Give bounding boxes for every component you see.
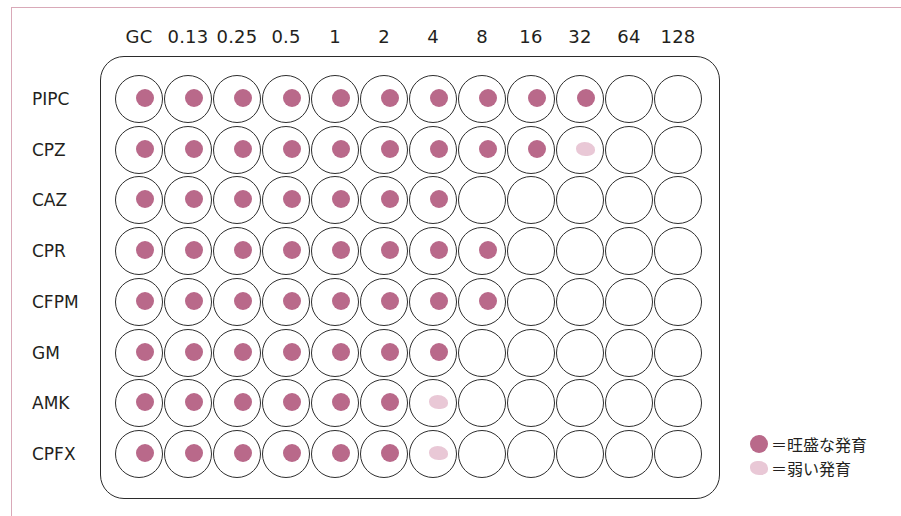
strong-growth-dot-icon (136, 292, 154, 310)
strong-growth-dot-icon (381, 190, 399, 208)
well (213, 430, 261, 478)
well (262, 379, 310, 427)
well (556, 278, 604, 326)
well (262, 227, 310, 275)
strong-growth-dot-icon (381, 343, 399, 361)
well (213, 329, 261, 377)
row-label: CFPM (32, 290, 79, 314)
well (605, 430, 653, 478)
well (115, 329, 163, 377)
well (507, 278, 555, 326)
strong-growth-dot-icon (234, 190, 252, 208)
strong-growth-dot-icon (136, 444, 154, 462)
well (311, 278, 359, 326)
strong-growth-dot-icon (430, 292, 448, 310)
well (213, 126, 261, 174)
well (556, 430, 604, 478)
column-header: 128 (653, 24, 703, 50)
well (311, 227, 359, 275)
column-header: 64 (604, 24, 654, 50)
well (556, 227, 604, 275)
strong-growth-dot-icon (185, 444, 203, 462)
frame-top-line (11, 7, 901, 8)
well (164, 379, 212, 427)
strong-growth-dot-icon (381, 444, 399, 462)
legend-label-weak: ＝弱い発育 (771, 456, 851, 480)
well (360, 329, 408, 377)
well (164, 75, 212, 123)
well (605, 278, 653, 326)
row-label: GM (32, 341, 60, 365)
well (409, 227, 457, 275)
well (213, 278, 261, 326)
well (409, 329, 457, 377)
well (409, 75, 457, 123)
legend-label-strong: ＝旺盛な発育 (771, 432, 867, 456)
well (115, 430, 163, 478)
row-label: CPR (32, 239, 66, 263)
strong-growth-dot-icon (185, 393, 203, 411)
well (311, 75, 359, 123)
well (654, 278, 702, 326)
well (458, 329, 506, 377)
strong-growth-dot-icon (528, 140, 546, 158)
row-label: AMK (32, 391, 69, 415)
well (115, 379, 163, 427)
weak-growth-blob-icon (750, 461, 768, 475)
row-label: CAZ (32, 188, 67, 212)
strong-growth-dot-icon (136, 89, 154, 107)
strong-growth-dot-icon (283, 343, 301, 361)
strong-growth-dot-icon (430, 241, 448, 259)
well (164, 126, 212, 174)
well (556, 329, 604, 377)
legend-item-weak-growth: ＝弱い発育 (750, 456, 867, 480)
well (507, 329, 555, 377)
well (409, 278, 457, 326)
strong-growth-dot-icon (234, 292, 252, 310)
well (507, 379, 555, 427)
strong-growth-dot-icon (136, 343, 154, 361)
well (458, 75, 506, 123)
frame-left-line (11, 7, 12, 516)
well (164, 430, 212, 478)
well (458, 126, 506, 174)
strong-growth-dot-icon (750, 435, 768, 453)
strong-growth-dot-icon (136, 393, 154, 411)
well (654, 227, 702, 275)
well (458, 379, 506, 427)
strong-growth-dot-icon (577, 89, 595, 107)
well (458, 430, 506, 478)
strong-growth-dot-icon (283, 241, 301, 259)
well (654, 75, 702, 123)
strong-growth-dot-icon (234, 343, 252, 361)
strong-growth-dot-icon (234, 89, 252, 107)
well (213, 75, 261, 123)
strong-growth-dot-icon (332, 140, 350, 158)
column-header: 2 (359, 24, 409, 50)
row-label: CPFX (32, 442, 76, 466)
well (115, 227, 163, 275)
row-label: CPZ (32, 138, 66, 162)
well (360, 75, 408, 123)
well (115, 75, 163, 123)
well (311, 430, 359, 478)
column-header: 4 (408, 24, 458, 50)
well (311, 329, 359, 377)
well (654, 126, 702, 174)
weak-growth-blob-icon (429, 395, 448, 409)
strong-growth-dot-icon (430, 343, 448, 361)
well (213, 227, 261, 275)
well (360, 278, 408, 326)
well (605, 329, 653, 377)
strong-growth-dot-icon (479, 241, 497, 259)
well (507, 430, 555, 478)
well (507, 126, 555, 174)
well (556, 379, 604, 427)
well (458, 227, 506, 275)
column-header: 8 (457, 24, 507, 50)
well (164, 227, 212, 275)
column-header: 0.5 (261, 24, 311, 50)
strong-growth-dot-icon (185, 140, 203, 158)
well (311, 379, 359, 427)
well (262, 126, 310, 174)
